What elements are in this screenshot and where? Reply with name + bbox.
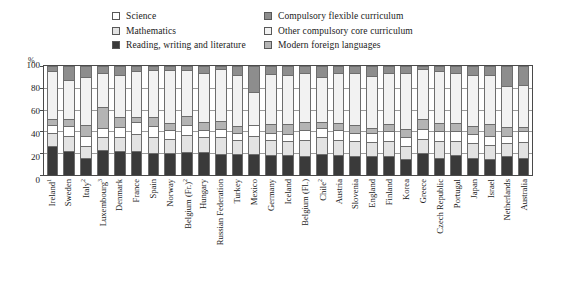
stacked-bar[interactable] — [383, 66, 395, 175]
stacked-bar[interactable] — [349, 66, 361, 175]
bar-cell — [263, 66, 280, 175]
bar-segment-flexible — [233, 66, 243, 75]
stacked-bar[interactable] — [63, 66, 75, 175]
bar-segment-science — [98, 128, 108, 137]
bar-segment-reading — [468, 158, 478, 175]
bar-segment-other_core — [401, 73, 411, 130]
stacked-bar[interactable] — [282, 66, 294, 175]
bar-cell — [397, 66, 414, 175]
stacked-bar[interactable] — [164, 66, 176, 175]
plot-area — [43, 65, 533, 176]
bar-segment-languages — [283, 124, 293, 134]
bar-cell — [498, 66, 515, 175]
y-axis-tick — [40, 175, 44, 176]
x-tick-label: Italy2 — [79, 179, 91, 198]
bar-segment-mathematics — [350, 141, 360, 156]
bar-cell — [111, 66, 128, 175]
x-label-cell: Russian Federation — [212, 177, 229, 287]
x-label-cell: Israel — [482, 177, 499, 287]
legend-item-other_core[interactable]: Other compulsory core curriculum — [264, 24, 413, 39]
bar-segment-other_core — [300, 73, 310, 122]
legend-swatch-other_core-icon — [264, 27, 272, 35]
x-label-cell: Portugal — [448, 177, 465, 287]
bar-cell — [94, 66, 111, 175]
bar-segment-reading — [81, 158, 91, 175]
bar-cell — [313, 66, 330, 175]
stacked-bar[interactable] — [333, 66, 345, 175]
bar-segment-mathematics — [48, 133, 58, 146]
bar-segment-flexible — [317, 66, 327, 77]
bar-segment-science — [266, 133, 276, 141]
bar-segment-science — [132, 122, 142, 134]
y-axis-tick-labels: 020406080100 — [18, 59, 40, 174]
x-label-cell: Belgium (Fl.) — [296, 177, 313, 287]
bar-segment-reading — [317, 154, 327, 175]
bar-segment-mathematics — [451, 141, 461, 155]
legend-item-languages[interactable]: Modern foreign languages — [264, 38, 413, 53]
x-tick-label: Turkey — [233, 179, 242, 204]
stacked-bar[interactable] — [501, 66, 513, 175]
x-label-cell: Denmark — [111, 177, 128, 287]
stacked-bar[interactable] — [467, 66, 479, 175]
bar-segment-mathematics — [165, 139, 175, 153]
bar-cell — [280, 66, 297, 175]
stacked-bar[interactable] — [97, 66, 109, 175]
legend-column-right: Compulsory flexible curriculumOther comp… — [264, 9, 413, 53]
stacked-bar[interactable] — [232, 66, 244, 175]
stacked-bar[interactable] — [450, 66, 462, 175]
stacked-bar[interactable] — [366, 66, 378, 175]
bar-segment-languages — [81, 125, 91, 136]
plot-wrapper: % 020406080100 Ireland1SwedenItaly2Luxem… — [0, 56, 565, 287]
bar-segment-mathematics — [418, 139, 428, 153]
x-label-cell: Belgium (Fr.)2 — [178, 177, 195, 287]
y-tick-label: 0 — [36, 176, 41, 185]
stacked-bar[interactable] — [198, 66, 210, 175]
stacked-bar[interactable] — [131, 66, 143, 175]
bar-segment-languages — [485, 124, 495, 136]
bar-segment-reading — [418, 153, 428, 175]
bar-segment-other_core — [485, 75, 495, 124]
stacked-bar[interactable] — [248, 66, 260, 175]
bar-segment-languages — [266, 124, 276, 133]
stacked-bar[interactable] — [484, 66, 496, 175]
legend-item-reading[interactable]: Reading, writing and literature — [112, 38, 246, 53]
stacked-bar[interactable] — [434, 66, 446, 175]
bar-segment-mathematics — [266, 140, 276, 155]
bar-segment-reading — [367, 156, 377, 175]
stacked-bar[interactable] — [215, 66, 227, 175]
x-tick-label: Portugal — [452, 179, 461, 208]
stacked-bar[interactable] — [417, 66, 429, 175]
stacked-bar[interactable] — [299, 66, 311, 175]
bar-segment-science — [451, 131, 461, 141]
bar-segment-reading — [233, 154, 243, 175]
stacked-bar[interactable] — [80, 66, 92, 175]
legend-column-left: ScienceMathematicsReading, writing and l… — [112, 9, 246, 53]
x-tick-footnote: 2 — [317, 179, 323, 182]
x-tick-label: Korea — [402, 179, 411, 200]
x-tick-label: Austria — [334, 179, 343, 204]
legend-item-flexible[interactable]: Compulsory flexible curriculum — [264, 9, 413, 24]
stacked-bar[interactable] — [316, 66, 328, 175]
stacked-bar[interactable] — [400, 66, 412, 175]
stacked-bar[interactable] — [148, 66, 160, 175]
stacked-bar[interactable] — [114, 66, 126, 175]
stacked-bar[interactable] — [181, 66, 193, 175]
bar-segment-science — [233, 133, 243, 141]
legend-item-mathematics[interactable]: Mathematics — [112, 24, 246, 39]
x-label-cell: Norway — [161, 177, 178, 287]
stacked-bar[interactable] — [518, 66, 530, 175]
x-tick-label: Mexico — [250, 179, 259, 205]
x-tick-label: Iceland — [283, 179, 292, 204]
bar-segment-reading — [401, 159, 411, 175]
stacked-bar[interactable] — [265, 66, 277, 175]
bar-segment-science — [367, 133, 377, 143]
stacked-bar[interactable] — [47, 66, 59, 175]
x-tick-footnote: 2 — [182, 179, 188, 182]
bar-segment-reading — [165, 153, 175, 175]
legend-item-science[interactable]: Science — [112, 9, 246, 24]
bar-cell — [347, 66, 364, 175]
bar-segment-flexible — [367, 66, 377, 76]
x-tick-label: Germany — [267, 179, 276, 211]
bar-segment-science — [418, 129, 428, 139]
x-label-cell: Czech Republic — [431, 177, 448, 287]
